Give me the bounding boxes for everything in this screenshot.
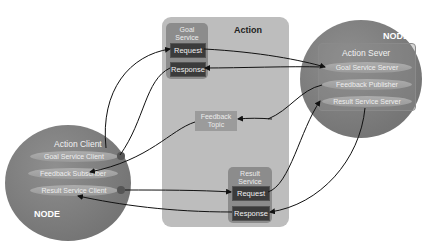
connection-wires — [0, 0, 439, 244]
